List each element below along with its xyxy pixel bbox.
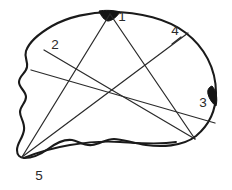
landmark-label-1: 1 — [118, 9, 126, 24]
figure-canvas: 1 2 3 4 5 — [0, 0, 232, 190]
landmark-label-2: 2 — [51, 37, 59, 52]
landmark-label-4: 4 — [171, 23, 179, 38]
cranial-landmark-figure: 1 2 3 4 5 — [0, 0, 232, 190]
landmark-label-3: 3 — [199, 95, 207, 110]
landmark-label-5: 5 — [35, 168, 43, 183]
